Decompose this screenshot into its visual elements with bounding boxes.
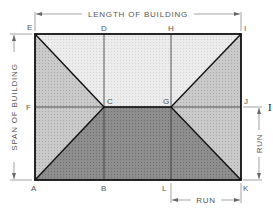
point-i: I bbox=[244, 24, 246, 33]
point-a: A bbox=[31, 184, 37, 193]
point-b: B bbox=[101, 184, 106, 193]
point-j: J bbox=[244, 97, 248, 106]
run-horizontal-label: RUN bbox=[196, 196, 216, 205]
length-of-building-label: LENGTH OF BUILDING bbox=[88, 10, 188, 19]
stray-mark: I bbox=[268, 101, 272, 113]
point-h: H bbox=[168, 24, 174, 33]
point-k: K bbox=[243, 184, 249, 193]
point-g: G bbox=[163, 97, 169, 106]
point-e: E bbox=[27, 23, 32, 32]
point-c: C bbox=[107, 97, 113, 106]
span-of-building-label: SPAN OF BUILDING bbox=[10, 63, 19, 150]
point-f: F bbox=[26, 103, 31, 112]
point-l: L bbox=[162, 184, 167, 193]
run-vertical-label: RUN bbox=[255, 134, 264, 154]
point-d: D bbox=[101, 24, 107, 33]
hip-roof-diagram: LENGTH OF BUILDING SPAN OF BUILDING RUN … bbox=[0, 0, 273, 216]
